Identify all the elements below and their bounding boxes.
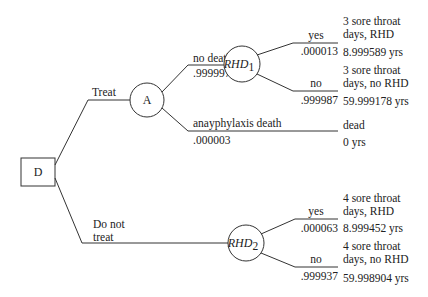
- outcome-treat-rhd: 3 sore throat days, RHD 8.999589 yrs: [343, 15, 404, 59]
- branch-rhd1-no-line: [257, 74, 338, 91]
- branch-treat-line: [55, 100, 130, 165]
- outcome-value: 59.999178 yrs: [343, 95, 409, 108]
- branch-rhd1-no-label: no: [310, 77, 322, 89]
- branch-anaphylaxis-prob: .000003: [193, 134, 231, 146]
- chance-node-a-label: A: [143, 93, 152, 107]
- outcome-notreat-rhd: 4 sore throat days, RHD 8.999452 yrs: [343, 192, 404, 235]
- outcome-value: 0 yrs: [343, 136, 366, 149]
- branch-rhd2-no-label: no: [310, 253, 322, 265]
- branch-do-not-treat-label-1: Do not: [93, 218, 125, 230]
- decision-node-label: D: [34, 165, 43, 179]
- branch-rhd2-yes-label: yes: [308, 205, 324, 218]
- branch-treat-label: Treat: [92, 86, 117, 98]
- branch-rhd1-yes-label: yes: [308, 29, 324, 42]
- branch-rhd2-no-line: [261, 253, 338, 267]
- branch-rhd1-yes-prob: .000013: [301, 45, 339, 57]
- outcome-notreat-no-rhd: 4 sore throat days, no RHD 59.998904 yrs: [343, 240, 409, 285]
- chance-node-rhd2: RHD2: [227, 225, 264, 261]
- branch-rhd2-no-prob: .999937: [301, 270, 339, 282]
- branch-treat: Treat: [55, 86, 130, 165]
- branch-anaphylaxis-label: anayphylaxis death: [193, 117, 282, 130]
- outcome-value: 59.998904 yrs: [343, 272, 409, 285]
- branch-do-not-treat-line: [55, 178, 228, 243]
- outcome-text: 3 sore throat: [343, 64, 401, 76]
- decision-tree-diagram: D Treat Do not treat A no death .999997 …: [0, 0, 428, 297]
- branch-do-not-treat-label-2: treat: [93, 231, 114, 243]
- branch-rhd2-yes-prob: .000063: [301, 222, 339, 234]
- outcome-text: 4 sore throat: [343, 240, 401, 252]
- outcome-text: 4 sore throat: [343, 192, 401, 204]
- outcome-text: days, RHD: [343, 28, 394, 41]
- outcome-text: days, RHD: [343, 205, 394, 218]
- branch-rhd1-no: no .999987: [257, 74, 338, 106]
- decision-node-d: D: [21, 158, 55, 186]
- outcome-text: 3 sore throat: [343, 15, 401, 27]
- outcome-value: 8.999452 yrs: [343, 222, 404, 235]
- branch-rhd1-yes: yes .000013: [257, 29, 338, 57]
- outcome-text: dead: [343, 119, 365, 131]
- outcome-treat-no-rhd: 3 sore throat days, no RHD 59.999178 yrs: [343, 64, 409, 108]
- branch-rhd2-yes: yes .000063: [261, 205, 338, 234]
- outcome-treat-dead: dead 0 yrs: [343, 119, 366, 149]
- branch-rhd2-no: no .999937: [261, 253, 338, 282]
- branch-anaphylaxis-death: anayphylaxis death .000003: [162, 108, 338, 146]
- outcome-text: days, no RHD: [343, 77, 409, 90]
- branch-do-not-treat: Do not treat: [55, 178, 228, 243]
- branch-rhd1-no-prob: .999987: [301, 94, 339, 106]
- chance-node-a: A: [130, 83, 164, 117]
- branch-no-death: no death .999997: [162, 52, 233, 92]
- outcome-value: 8.999589 yrs: [343, 46, 404, 59]
- outcome-text: days, no RHD: [343, 253, 409, 266]
